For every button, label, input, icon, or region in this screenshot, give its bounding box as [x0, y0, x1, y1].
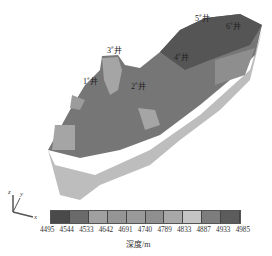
axis-triad-icon — [5, 190, 45, 220]
legend-tick: 4740 — [138, 226, 152, 234]
legend-tick: 4887 — [197, 226, 211, 234]
legend-swatch — [108, 211, 127, 223]
legend-tick: 4544 — [60, 226, 74, 234]
well-label-1: 1#井 — [83, 75, 98, 86]
well-label-4: 4#井 — [174, 51, 189, 62]
legend-swatch — [51, 211, 70, 223]
legend-swatch — [146, 211, 165, 223]
axis-y-label: y — [20, 190, 23, 198]
legend-swatch — [221, 211, 240, 223]
legend-swatch — [202, 211, 221, 223]
legend-tick: 4495 — [40, 226, 54, 234]
well-label-2: 2#井 — [131, 80, 146, 91]
color-legend — [50, 210, 241, 224]
legend-tick: 4985 — [236, 226, 250, 234]
axis-z-label: z — [8, 188, 11, 196]
legend-tick: 4789 — [157, 226, 171, 234]
legend-tick: 4691 — [118, 226, 132, 234]
legend-swatch — [127, 211, 146, 223]
legend-tick: 4642 — [99, 226, 113, 234]
well-label-3: 3#井 — [107, 44, 122, 55]
legend-swatch — [164, 211, 183, 223]
legend-unit: 深度/m — [126, 238, 150, 249]
legend-tick: 4833 — [177, 226, 191, 234]
legend-swatch — [183, 211, 202, 223]
well-label-6: 6#井 — [226, 20, 241, 31]
legend-tick: 4533 — [79, 226, 93, 234]
well-label-5: 5#井 — [195, 12, 210, 23]
axis-x-label: x — [34, 213, 37, 221]
legend-swatch — [70, 211, 89, 223]
legend-swatch — [89, 211, 108, 223]
legend-ticks: 4495454445334642469147404789483348874933… — [40, 226, 250, 234]
legend-tick: 4933 — [216, 226, 230, 234]
